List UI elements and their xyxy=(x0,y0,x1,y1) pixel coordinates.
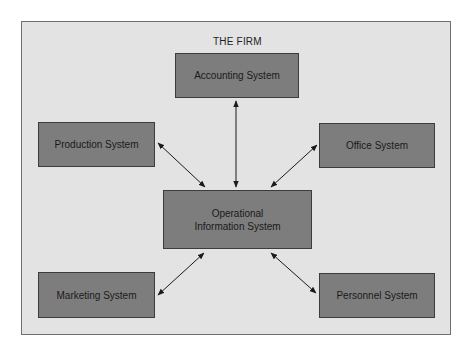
connector-layer xyxy=(0,0,473,349)
arrow-operational-marketing xyxy=(158,253,204,295)
arrow-operational-personnel xyxy=(271,253,316,293)
arrow-operational-production xyxy=(158,143,205,187)
arrow-operational-office xyxy=(271,145,317,187)
